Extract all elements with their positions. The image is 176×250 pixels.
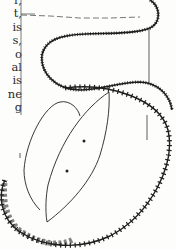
- dot-lower: [66, 170, 69, 173]
- book-page: r, t, is s, o al is ne g: [0, 0, 176, 250]
- leaf-lobe-outline: [46, 92, 109, 222]
- dot-upper: [83, 140, 86, 143]
- beaded-ring: [1, 87, 169, 246]
- specimen-illustration: [0, 0, 176, 250]
- dashed-guide-line: [21, 15, 140, 18]
- oval-rim: [1, 87, 169, 246]
- left-lobe-outline: [24, 102, 80, 170]
